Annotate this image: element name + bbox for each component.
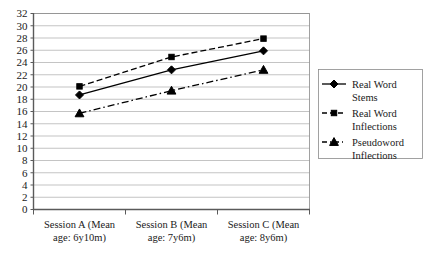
y-tick-label: 2 (22, 191, 28, 203)
y-tick-label: 16 (17, 105, 29, 117)
x-axis-label: Session A (Mean (44, 219, 116, 231)
y-tick-label: 4 (22, 179, 28, 191)
y-tick-label: 20 (17, 81, 29, 93)
y-tick-label: 0 (22, 203, 28, 215)
y-tick-label: 12 (17, 130, 28, 142)
legend-label: Inflections (352, 121, 397, 132)
y-tick-label: 24 (17, 56, 29, 68)
data-point-marker (261, 36, 266, 41)
legend-label: Pseudoword (352, 137, 405, 148)
y-tick-label: 10 (17, 142, 29, 154)
legend-label: Real Word (352, 79, 397, 90)
y-tick-label: 30 (17, 20, 29, 32)
y-tick-label: 14 (17, 118, 29, 130)
legend-label: Inflections (352, 150, 397, 161)
data-point-marker (331, 110, 336, 115)
y-tick-label: 8 (22, 154, 28, 166)
line-chart: 02468101214161820222426283032 Session A … (0, 0, 424, 271)
y-tick-label: 26 (17, 44, 29, 56)
x-axis-label: Session C (Mean (228, 219, 300, 231)
y-tick-label: 22 (17, 69, 28, 81)
x-axis-label: age: 7y6m) (148, 232, 196, 244)
y-tick-label: 28 (17, 32, 29, 44)
x-axis-label: Session B (Mean (136, 219, 208, 231)
chart-container: 02468101214161820222426283032 Session A … (0, 0, 424, 271)
y-tick-label: 6 (22, 167, 28, 179)
y-tick-label: 18 (17, 93, 29, 105)
x-axis-category-labels: Session A (Meanage: 6y10m)Session B (Mea… (44, 219, 300, 244)
x-axis-label: age: 6y10m) (53, 232, 106, 244)
y-tick-label: 32 (17, 7, 28, 19)
legend-label: Real Word (352, 108, 397, 119)
legend-label: Stems (352, 92, 378, 103)
data-point-marker (169, 54, 174, 59)
data-point-marker (77, 84, 82, 89)
x-axis-label: age: 8y6m) (240, 232, 288, 244)
